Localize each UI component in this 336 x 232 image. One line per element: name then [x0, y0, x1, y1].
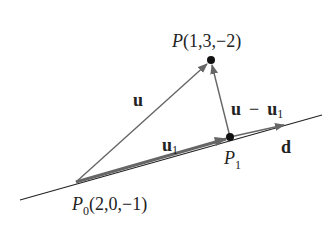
label-u: u — [133, 90, 143, 110]
label-p: P(1,3,−2) — [171, 31, 241, 52]
label-d: d — [281, 137, 291, 157]
vector-u-minus-u1 — [212, 65, 230, 137]
line-l — [20, 115, 322, 200]
point-p — [207, 56, 215, 64]
vector-projection-diagram: P(1,3,−2) u u−u1 u1 d P1 P0(2,0,−1) — [0, 0, 336, 232]
label-p1: P1 — [223, 148, 241, 172]
label-p0: P0(2,0,−1) — [71, 194, 147, 218]
point-p1 — [226, 133, 234, 141]
vector-u1-arrowhead — [214, 137, 227, 146]
vector-d — [230, 125, 284, 137]
label-u1: u1 — [162, 135, 178, 157]
label-u-minus-u1: u−u1 — [231, 99, 283, 121]
vector-u1 — [76, 139, 226, 182]
